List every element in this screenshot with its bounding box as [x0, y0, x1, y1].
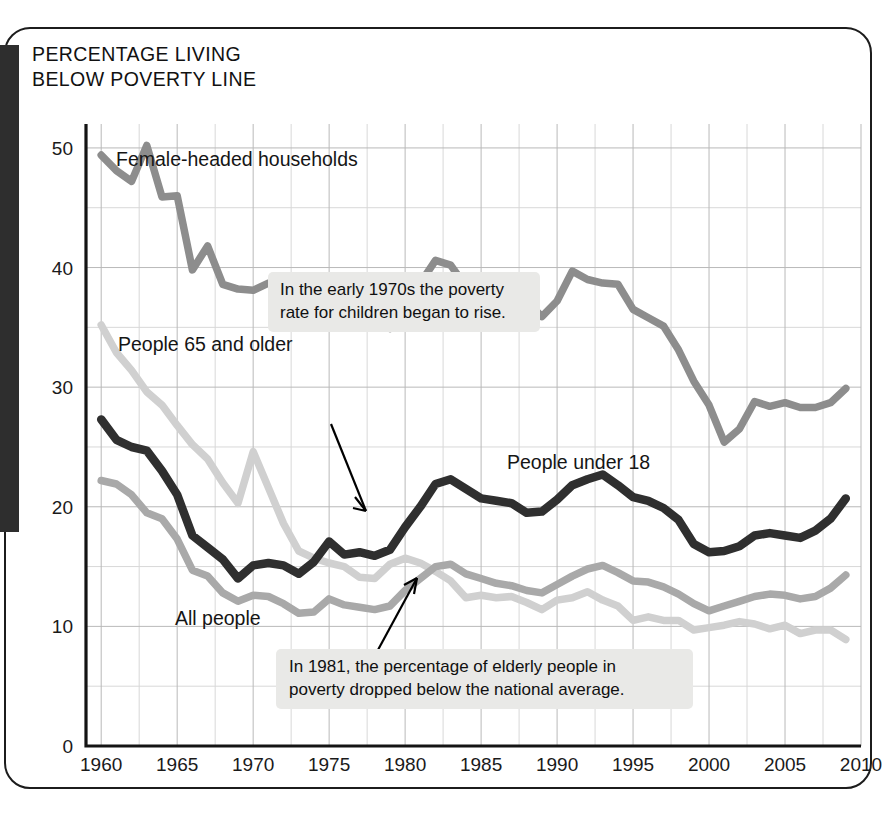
y-tick-label: 30: [52, 377, 73, 398]
x-tick-label: 1995: [612, 754, 654, 775]
series-label-all-people: All people: [175, 607, 261, 629]
annotation-children-rise: In the early 1970s the poverty rate for …: [268, 272, 540, 511]
y-tick-label: 50: [52, 138, 73, 159]
x-tick-label: 2000: [688, 754, 730, 775]
y-tick-label: 20: [52, 497, 73, 518]
y-tick-label: 0: [62, 736, 73, 757]
x-tick-label: 1970: [232, 754, 274, 775]
x-tick-label: 1985: [460, 754, 502, 775]
x-tick-label: 1975: [308, 754, 350, 775]
series-label-female-headed: Female-headed households: [116, 148, 358, 170]
callout-children-rise-line2: rate for children began to rise.: [280, 303, 506, 322]
callout-children-rise-line1: In the early 1970s the poverty: [280, 280, 504, 299]
leader-line-children-rise: [331, 424, 366, 511]
x-tick-label: 1990: [536, 754, 578, 775]
y-tick-label: 10: [52, 616, 73, 637]
x-tick-label: 1960: [80, 754, 122, 775]
callout-elderly-line2: poverty dropped below the national avera…: [289, 680, 625, 699]
series-label-elderly: People 65 and older: [118, 333, 293, 355]
data-line-people-under-18: [101, 419, 846, 578]
x-tick-label: 1980: [384, 754, 426, 775]
data-lines: [101, 146, 846, 640]
data-line-people-65-and-older: [101, 325, 846, 640]
series-label-under18: People under 18: [507, 451, 650, 473]
x-tick-label: 2005: [764, 754, 806, 775]
callout-elderly-line1: In 1981, the percentage of elderly peopl…: [289, 657, 616, 676]
y-tick-label: 40: [52, 258, 73, 279]
x-tick-label: 2010: [840, 754, 882, 775]
chart-area: 1960196519701975198019851990199520002005…: [0, 0, 884, 817]
x-tick-label: 1965: [156, 754, 198, 775]
poverty-line-chart: 1960196519701975198019851990199520002005…: [0, 0, 884, 817]
x-axis-tick-labels: 1960196519701975198019851990199520002005…: [80, 754, 882, 775]
y-axis-tick-labels: 01020304050: [52, 138, 73, 757]
